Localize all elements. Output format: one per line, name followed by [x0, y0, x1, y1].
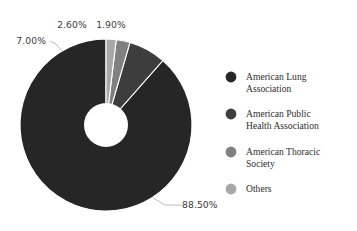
legend-dot-icon [226, 147, 237, 158]
chart-canvas: 88.50% 7.00% 2.60% 1.90% American Lung A… [0, 0, 357, 231]
legend-label-line2: Society [246, 158, 275, 169]
legend-dot-icon [226, 109, 237, 120]
legend-label-line1: American Lung [246, 71, 307, 82]
legend-item-others[interactable]: Others [226, 183, 272, 194]
slice-label-1-90: 1.90% [96, 19, 126, 30]
legend-label-line1: Others [246, 183, 272, 194]
legend-label-line2: Association [246, 83, 292, 94]
legend-label-line2: Health Association [246, 120, 319, 131]
donut-center-hole [84, 103, 128, 147]
legend-dot-icon [226, 184, 237, 195]
slice-label-2-60: 2.60% [57, 19, 87, 30]
legend-dot-icon [226, 72, 237, 83]
slice-label-7-00: 7.00% [16, 35, 46, 46]
slice-label-88-50: 88.50% [182, 199, 218, 210]
legend-label-line1: American Public [246, 108, 311, 119]
legend-label-line1: American Thoracic [246, 146, 320, 157]
donut-chart-figure: 88.50% 7.00% 2.60% 1.90% American Lung A… [0, 0, 357, 231]
